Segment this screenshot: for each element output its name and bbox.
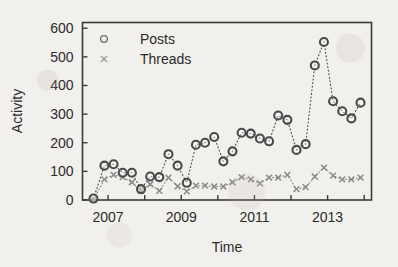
posts-data-point: [228, 147, 236, 155]
y-tick-label: 500: [50, 49, 74, 65]
posts-data-point: [338, 107, 346, 115]
posts-data-point: [201, 139, 209, 147]
posts-data-point: [192, 141, 200, 149]
x-tick-label: 2009: [166, 209, 197, 225]
legend-label-threads: Threads: [140, 51, 191, 67]
x-tick-label: 2007: [93, 209, 124, 225]
posts-data-point: [128, 169, 136, 177]
chart-figure: 0100200300400500600 2007200920112013 Act…: [0, 0, 398, 267]
posts-data-point: [174, 162, 182, 170]
posts-data-point: [329, 97, 337, 105]
y-tick-label: 100: [50, 163, 74, 179]
posts-data-point: [283, 116, 291, 124]
y-tick-label: 300: [50, 106, 74, 122]
posts-data-point: [256, 134, 264, 142]
x-tick-label: 2013: [312, 209, 343, 225]
posts-data-point: [247, 130, 255, 138]
chart-background: [0, 0, 398, 267]
posts-data-point: [238, 129, 246, 137]
legend-label-posts: Posts: [140, 31, 175, 47]
posts-data-point: [110, 160, 118, 168]
posts-data-point: [320, 38, 328, 46]
y-tick-label: 400: [50, 77, 74, 93]
x-axis-title: Time: [212, 239, 243, 255]
x-tick-label: 2011: [239, 209, 269, 225]
activity-time-scatter-chart: 0100200300400500600 2007200920112013 Act…: [0, 0, 398, 267]
y-tick-label: 200: [50, 135, 74, 151]
posts-data-point: [311, 61, 319, 69]
posts-data-point: [265, 137, 273, 145]
posts-data-point: [347, 114, 355, 122]
posts-data-point: [274, 112, 282, 120]
posts-data-point: [100, 162, 108, 170]
posts-data-point: [119, 169, 127, 177]
posts-data-point: [146, 173, 154, 181]
posts-data-point: [210, 133, 218, 141]
posts-data-point: [89, 195, 97, 203]
posts-data-point: [219, 157, 227, 165]
posts-data-point: [137, 185, 145, 193]
posts-data-point: [155, 173, 163, 181]
posts-data-point: [302, 140, 310, 148]
posts-data-point: [164, 150, 172, 158]
posts-data-point: [183, 179, 191, 187]
y-tick-label: 0: [66, 192, 74, 208]
posts-data-point: [357, 99, 365, 107]
y-tick-label: 600: [50, 20, 74, 36]
posts-data-point: [293, 146, 301, 154]
y-axis-title: Activity: [9, 89, 25, 133]
